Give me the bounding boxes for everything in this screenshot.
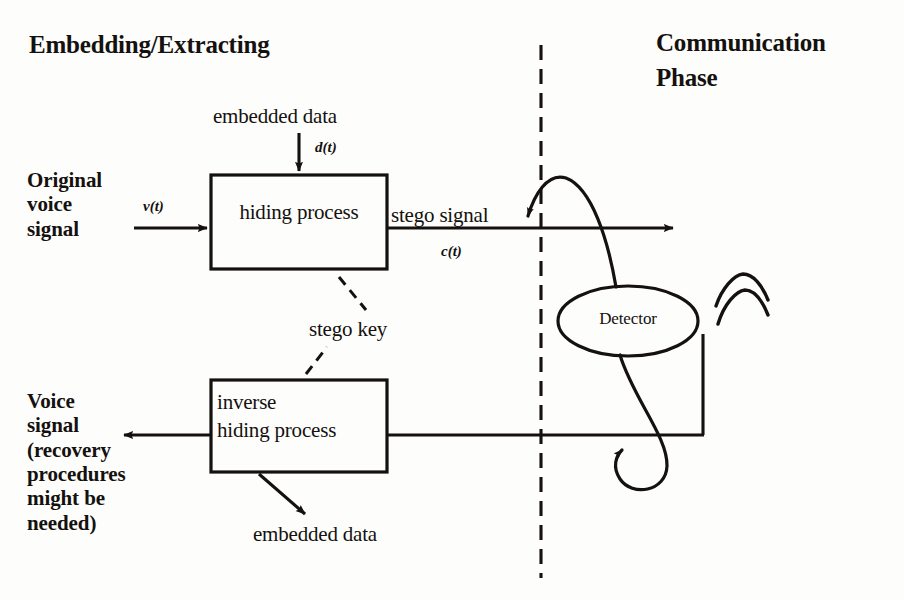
heading-phase: Phase [656,63,718,92]
hiding-process-label: hiding process [211,200,387,224]
label-embedded-data-bottom: embedded data [253,522,377,546]
signal-label-d-of-t: d(t) [315,139,337,156]
detector-tap-lower-curve [616,355,668,490]
label-voice-signal-recovery: Voice signal (recovery procedures might … [27,389,126,535]
signal-label-v-of-t: v(t) [143,198,164,215]
signal-label-c-of-t: c(t) [441,243,462,260]
label-stego-signal: stego signal [391,203,488,227]
figure-canvas: Embedding/Extracting Communication Phase… [0,0,904,600]
return-channel-line [387,334,704,435]
inverse-hiding-label-line1: inverse [217,390,393,414]
arrow-embedded-data-out [259,474,305,514]
antenna-icon [716,274,768,324]
detector-label: Detector [558,309,698,329]
label-stego-key: stego key [309,317,387,341]
diagram-svg [0,0,904,600]
stego-key-connector-upper [339,277,366,310]
label-original-voice-signal: Original voice signal [27,168,102,241]
heading-communication: Communication [656,28,826,57]
inverse-hiding-label-line2: hiding process [217,418,393,442]
label-embedded-data-top: embedded data [213,104,337,128]
stego-key-connector-lower [306,347,327,374]
heading-embedding-extracting: Embedding/Extracting [29,30,269,59]
